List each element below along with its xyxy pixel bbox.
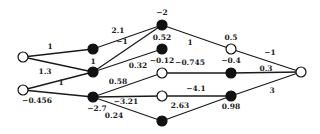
edge-weight-label: 1 — [187, 38, 192, 47]
node-bias-label: −2 — [156, 8, 168, 17]
node-bias-label: −0.4 — [221, 56, 240, 65]
node-bias-label: −2.7 — [87, 104, 106, 113]
node-h1b — [88, 67, 98, 77]
edge-weight-label: −4.1 — [186, 84, 205, 93]
edge-weight-label: −0.745 — [175, 58, 205, 67]
edge-weight-label: 1 — [58, 78, 63, 87]
edge-weight-label: 2.63 — [171, 101, 189, 110]
node-h2b — [157, 44, 167, 54]
node-h3a — [226, 44, 236, 54]
node-h1c — [88, 92, 98, 102]
node-i2 — [18, 85, 28, 95]
edge-weight-label: 1 — [47, 42, 52, 51]
edge-i1-h1b — [23, 57, 93, 72]
labels-layer: 11.31−0.4562.1−10.320.58−3.210.241−0.745… — [22, 8, 276, 120]
node-h1a — [88, 44, 98, 54]
edge-i1-h1a — [23, 49, 93, 57]
edge-weight-label: 3 — [269, 86, 274, 95]
edge-weight-label: 0.24 — [105, 111, 123, 120]
node-o1 — [296, 67, 306, 77]
node-h3b — [226, 68, 236, 78]
edge-weight-label: 0.32 — [129, 61, 147, 70]
neural-network-diagram: 11.31−0.4562.1−10.320.58−3.210.241−0.745… — [0, 0, 320, 134]
node-h2d — [157, 91, 167, 101]
edge-weight-label: −3.21 — [114, 97, 139, 106]
edge-weight-label: 2.1 — [111, 26, 124, 35]
node-h2a — [157, 20, 167, 30]
node-bias-label: 0.52 — [153, 33, 171, 42]
edge-weight-label: −1 — [116, 37, 128, 46]
edge-weight-label: 0.3 — [259, 64, 272, 73]
edge-h1c-h2c — [93, 73, 162, 97]
edge-h3c-o1 — [231, 72, 301, 96]
edge-weight-label: −0.456 — [22, 96, 52, 105]
node-bias-label: 1 — [90, 57, 95, 66]
node-h3c — [226, 91, 236, 101]
edge-weight-label: 1.3 — [38, 67, 51, 76]
node-bias-label: 0.5 — [224, 33, 237, 42]
edge-h2a-h3a — [162, 25, 231, 49]
edge-weight-label: −1 — [264, 48, 276, 57]
node-bias-label: 0.98 — [222, 102, 240, 111]
edge-weight-label: 0.58 — [109, 77, 127, 86]
node-h2e — [157, 116, 167, 126]
node-bias-label: −0.12 — [150, 56, 175, 65]
node-i1 — [18, 52, 28, 62]
node-h2c — [157, 68, 167, 78]
